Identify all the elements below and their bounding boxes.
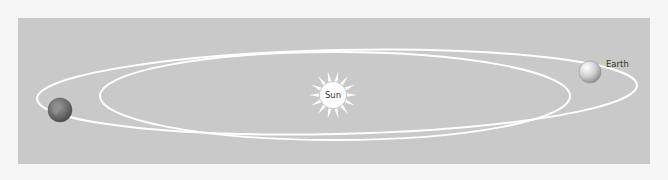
earth-left-icon	[48, 98, 72, 122]
orbit-diagram: Sun Earth	[0, 0, 668, 180]
sun: Sun	[309, 72, 357, 119]
sun-label: Sun	[325, 90, 341, 100]
earth-label: Earth	[606, 59, 629, 69]
earth-right-icon	[579, 61, 601, 83]
